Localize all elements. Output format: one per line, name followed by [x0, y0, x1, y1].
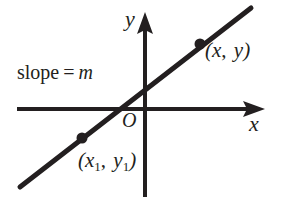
paren-close: ): [243, 38, 250, 62]
point-var-y: y: [113, 148, 122, 172]
slope-word: slope: [17, 61, 59, 83]
diagram-canvas: [0, 0, 282, 197]
x-axis: [17, 101, 265, 117]
point-var-x: x: [212, 38, 221, 62]
point-marker-upper: [195, 39, 206, 50]
slope-annotation: slope=m: [17, 62, 93, 82]
paren-close: ): [129, 148, 136, 172]
origin-label: O: [122, 110, 136, 130]
point-var-y: y: [234, 38, 243, 62]
point-separator: ,: [221, 38, 228, 62]
point-marker-lower: [77, 133, 88, 144]
slope-line-diagram: y x O slope=m (x, y) (x1, y1): [0, 0, 282, 197]
equals-sign: =: [59, 61, 78, 83]
point-label-upper: (x, y): [205, 40, 250, 61]
point-separator: ,: [101, 148, 108, 172]
y-axis: [137, 12, 153, 197]
point-label-lower: (x1, y1): [78, 150, 136, 173]
y-axis-label: y: [125, 8, 135, 30]
slope-symbol: m: [79, 61, 93, 83]
paren-open: (: [78, 148, 85, 172]
point-var-x-subscript: 1: [94, 159, 101, 174]
point-var-x: x: [85, 148, 94, 172]
x-axis-label: x: [249, 113, 259, 135]
paren-open: (: [205, 38, 212, 62]
